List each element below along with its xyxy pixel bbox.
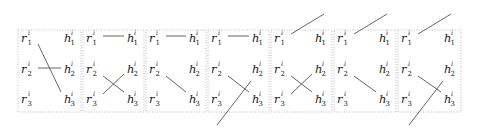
node-h1-superscript: i	[134, 29, 136, 37]
node-h2-superscript: i	[259, 60, 261, 68]
node-r2-subscript: 2	[93, 70, 97, 78]
node-r1-subscript: 1	[408, 39, 412, 47]
node-h3-subscript: 3	[196, 100, 200, 108]
node-r1-superscript: i	[218, 29, 220, 37]
node-r3-superscript: i	[344, 90, 346, 98]
node-r1-superscript: i	[156, 29, 158, 37]
node-r3-superscript: i	[28, 90, 30, 98]
node-r2-subscript: 2	[344, 70, 348, 78]
node-h2-subscript: 2	[451, 70, 455, 78]
node-h2-superscript: i	[322, 60, 324, 68]
node-h1-superscript: i	[322, 29, 324, 37]
node-h1-subscript: 1	[386, 39, 390, 47]
node-r2-superscript: i	[28, 60, 30, 68]
node-r3-subscript: 3	[344, 100, 348, 108]
node-r2-superscript: i	[408, 60, 410, 68]
node-h2-subscript: 2	[71, 70, 75, 78]
node-r1-subscript: 1	[281, 39, 285, 47]
node-h3-superscript: i	[259, 90, 261, 98]
edge-r2-h3	[418, 76, 441, 92]
node-h1-superscript: i	[71, 29, 73, 37]
panel-7: r1ir2ir3ih1ih2ih3i	[398, 14, 461, 125]
node-h3-superscript: i	[71, 90, 73, 98]
node-h3-superscript: i	[386, 90, 388, 98]
panel-6: r1ir2ir3ih1ih2ih3i	[334, 14, 396, 112]
node-h3-subscript: 3	[386, 100, 390, 108]
node-h3-subscript: 3	[71, 100, 75, 108]
node-r3-superscript: i	[218, 90, 220, 98]
node-r2-superscript: i	[218, 60, 220, 68]
node-r1-subscript: 1	[93, 39, 97, 47]
panel-4: r1ir2ir3ih1ih2ih3i	[208, 29, 269, 125]
node-h2-subscript: 2	[259, 70, 263, 78]
matching-diagram: r1ir2ir3ih1ih2ih3ir1ir2ir3ih1ih2ih3ir1ir…	[0, 0, 481, 129]
node-h3-superscript: i	[134, 90, 136, 98]
node-r1-subscript: 1	[218, 39, 222, 47]
node-r2-superscript: i	[344, 60, 346, 68]
node-h1-subscript: 1	[259, 39, 263, 47]
node-r3-subscript: 3	[408, 100, 412, 108]
node-r2-superscript: i	[93, 60, 95, 68]
node-h2-subscript: 2	[196, 70, 200, 78]
node-h1-subscript: 1	[451, 39, 455, 47]
node-r2-superscript: i	[156, 60, 158, 68]
node-h2-subscript: 2	[322, 70, 326, 78]
node-h3-subscript: 3	[134, 100, 138, 108]
node-r1-superscript: i	[28, 29, 30, 37]
node-h1-subscript: 1	[322, 39, 326, 47]
node-h3-superscript: i	[196, 90, 198, 98]
node-r2-subscript: 2	[28, 70, 32, 78]
node-h3-subscript: 3	[322, 100, 326, 108]
node-r3-subscript: 3	[218, 100, 222, 108]
node-h3-superscript: i	[322, 90, 324, 98]
node-r1-superscript: i	[93, 29, 95, 37]
panel-5: r1ir2ir3ih1ih2ih3i	[271, 14, 332, 112]
node-h1-superscript: i	[451, 29, 453, 37]
node-r3-superscript: i	[408, 90, 410, 98]
node-h1-superscript: i	[196, 29, 198, 37]
node-h2-superscript: i	[386, 60, 388, 68]
node-r3-subscript: 3	[281, 100, 285, 108]
node-r3-superscript: i	[281, 90, 283, 98]
node-r2-subscript: 2	[281, 70, 285, 78]
node-h2-superscript: i	[196, 60, 198, 68]
node-r1-subscript: 1	[344, 39, 348, 47]
node-r1-superscript: i	[281, 29, 283, 37]
node-r3-subscript: 3	[28, 100, 32, 108]
node-h2-superscript: i	[71, 60, 73, 68]
node-h2-subscript: 2	[134, 70, 138, 78]
node-r2-subscript: 2	[156, 70, 160, 78]
node-h1-subscript: 1	[71, 39, 75, 47]
node-r1-superscript: i	[408, 29, 410, 37]
node-h1-subscript: 1	[196, 39, 200, 47]
node-r1-superscript: i	[344, 29, 346, 37]
panel-2: r1ir2ir3ih1ih2ih3i	[83, 29, 144, 112]
node-h2-superscript: i	[451, 60, 453, 68]
edge-r3-h2	[291, 74, 312, 94]
node-h2-subscript: 2	[386, 70, 390, 78]
panel-3: r1ir2ir3ih1ih2ih3i	[146, 29, 206, 112]
edge-h2-outside	[217, 81, 251, 125]
edge-r2-h3	[166, 76, 186, 92]
edge-r2-h3	[228, 76, 249, 92]
edge-r3-h2	[103, 74, 124, 94]
node-r3-subscript: 3	[93, 100, 97, 108]
node-r1-subscript: 1	[156, 39, 160, 47]
node-h1-superscript: i	[386, 29, 388, 37]
node-h3-subscript: 3	[451, 100, 455, 108]
node-h1-subscript: 1	[134, 39, 138, 47]
edge-h2-outside	[409, 81, 443, 125]
node-h1-superscript: i	[259, 29, 261, 37]
node-h2-superscript: i	[134, 60, 136, 68]
node-r3-superscript: i	[93, 90, 95, 98]
node-r3-subscript: 3	[156, 100, 160, 108]
edge-r2-h3	[354, 76, 376, 92]
node-r2-subscript: 2	[218, 70, 222, 78]
panel-1: r1ir2ir3ih1ih2ih3i	[18, 29, 81, 112]
node-r2-subscript: 2	[408, 70, 412, 78]
node-h3-superscript: i	[451, 90, 453, 98]
node-r2-superscript: i	[281, 60, 283, 68]
node-h3-subscript: 3	[259, 100, 263, 108]
node-r3-superscript: i	[156, 90, 158, 98]
node-r1-subscript: 1	[28, 39, 32, 47]
